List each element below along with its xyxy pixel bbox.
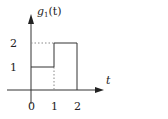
y-tick-2: 2 bbox=[10, 37, 17, 50]
signal-curve bbox=[31, 43, 77, 90]
y-label-func: g bbox=[37, 5, 44, 18]
plot-svg: 0 1 2 1 2 t g1(t) bbox=[0, 0, 168, 119]
x-axis-label: t bbox=[106, 74, 111, 87]
y-axis-arrow-icon bbox=[28, 14, 34, 24]
x-tick-2: 2 bbox=[74, 100, 81, 113]
y-label-arg: (t) bbox=[49, 5, 62, 18]
x-axis-arrow-icon bbox=[95, 87, 104, 93]
signal-plot: 0 1 2 1 2 t g1(t) bbox=[0, 0, 168, 119]
x-tick-0: 0 bbox=[28, 100, 35, 113]
y-tick-1: 1 bbox=[10, 61, 17, 74]
x-tick-1: 1 bbox=[51, 100, 58, 113]
y-axis-label: g1(t) bbox=[37, 5, 62, 19]
